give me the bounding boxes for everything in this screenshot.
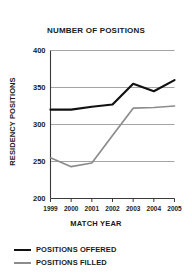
gray-line-swatch [14, 262, 31, 264]
x-tick-label: 2000 [60, 205, 82, 212]
legend-item-positions-offered: POSITIONS OFFERED [14, 243, 192, 256]
x-tick-label: 2004 [143, 205, 165, 212]
y-tick-label: 200 [22, 194, 46, 203]
x-tick-label: 2005 [164, 205, 186, 212]
y-tick-label: 350 [22, 83, 46, 92]
series-lines [51, 80, 175, 167]
y-tick-label: 400 [22, 46, 46, 55]
chart-legend: POSITIONS OFFERED POSITIONS FILLED [14, 243, 192, 269]
legend-label: POSITIONS OFFERED [36, 245, 116, 254]
x-axis-title: MATCH YEAR [0, 219, 192, 228]
legend-label: POSITIONS FILLED [36, 258, 107, 267]
y-tick-label: 250 [22, 157, 46, 166]
x-tick-label: 2002 [102, 205, 124, 212]
legend-item-positions-filled: POSITIONS FILLED [14, 256, 192, 269]
y-tick-label: 300 [22, 120, 46, 129]
x-tick-label: 2003 [122, 205, 144, 212]
chart-figure: NUMBER OF POSITIONS RESIDENCY POSITIONS … [0, 0, 192, 273]
plot-area [0, 0, 192, 273]
gridlines [51, 51, 175, 162]
x-tick-label: 2001 [81, 205, 103, 212]
x-tick-label: 1999 [40, 205, 62, 212]
black-line-swatch [14, 249, 31, 251]
